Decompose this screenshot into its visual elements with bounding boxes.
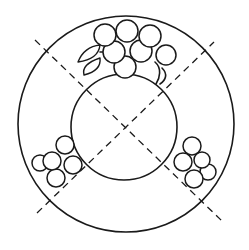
grape [56,136,74,154]
grape [43,152,61,170]
vine-tendril [160,68,166,84]
plate-design-diagram [0,0,249,250]
top-grape-cluster [78,20,176,84]
diagram-svg [0,0,249,250]
left-grape-cluster [32,136,82,187]
grape [47,169,65,187]
grape [94,24,116,46]
vine-tendril [155,62,160,84]
grape [174,153,192,171]
grape [183,137,201,155]
grape [185,170,203,188]
grape [156,45,176,65]
grape [116,20,138,42]
right-grape-cluster [174,137,216,188]
grape [139,25,161,47]
grape [64,156,82,174]
